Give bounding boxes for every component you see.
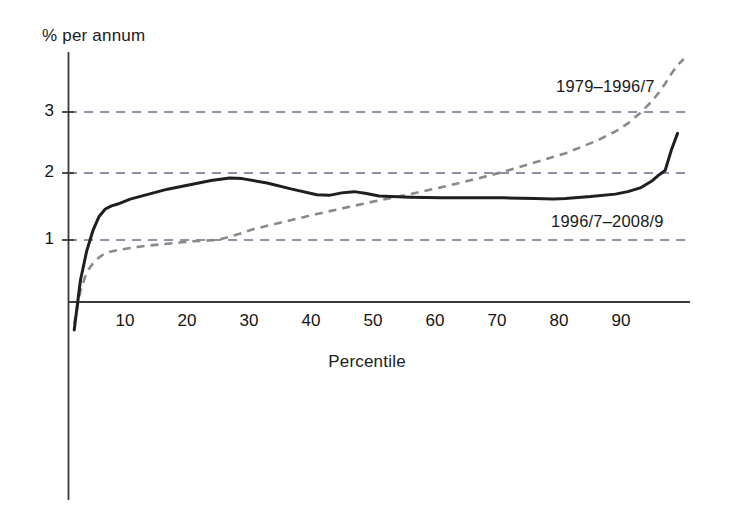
x-tick-label-80: 80 [539, 311, 579, 331]
x-tick-label-30: 30 [229, 311, 269, 331]
x-tick-label-40: 40 [291, 311, 331, 331]
y-tick-label-1: 1 [28, 229, 54, 249]
y-tick-label-3: 3 [28, 101, 54, 121]
x-tick-label-10: 10 [105, 311, 145, 331]
x-tick-label-20: 20 [167, 311, 207, 331]
series-line-1996-2008 [74, 133, 677, 330]
series-label-1996-2008: 1996/7–2008/9 [551, 212, 664, 231]
x-tick-label-90: 90 [601, 311, 641, 331]
y-tick-label-2: 2 [28, 162, 54, 182]
series-line-1979-1996 [74, 59, 684, 324]
series-label-1979-1996: 1979–1996/7 [556, 77, 655, 96]
x-tick-label-60: 60 [415, 311, 455, 331]
y-axis-title: % per annum [42, 26, 145, 46]
x-tick-label-50: 50 [353, 311, 393, 331]
x-axis-title: Percentile [0, 352, 734, 372]
chart-container: % per annum Percentile 3 2 1 10 20 30 40… [0, 0, 734, 524]
axes-spines [68, 52, 690, 500]
x-tick-label-70: 70 [477, 311, 517, 331]
